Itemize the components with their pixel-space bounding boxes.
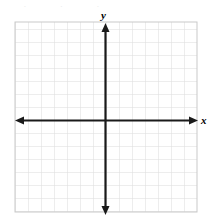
coordinate-plane-svg [0, 0, 212, 224]
coordinate-plane-figure: y x [0, 0, 212, 224]
x-axis-label: x [201, 115, 207, 126]
y-axis-label: y [101, 10, 106, 21]
